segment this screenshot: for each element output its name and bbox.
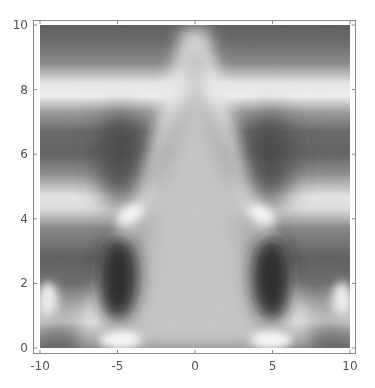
x-tick-label: -5: [112, 359, 124, 373]
plot-area: [30, 20, 360, 365]
x-tick-label: 0: [191, 359, 199, 373]
y-tick-label: 10: [13, 18, 28, 32]
y-tick-label: 8: [20, 83, 28, 97]
x-axis-labels: -10 -5 0 5 10: [30, 359, 357, 373]
x-tick-label: -10: [30, 359, 50, 373]
y-tick-label: 4: [20, 212, 28, 226]
y-tick-label: 2: [20, 276, 28, 290]
x-tick-label: 10: [342, 359, 357, 373]
y-tick-label: 6: [20, 147, 28, 161]
x-tick-label: 5: [269, 359, 277, 373]
density-plot: 0 2 4 6 8 10 -10 -5 0 5 10: [0, 0, 375, 388]
y-axis-labels: 0 2 4 6 8 10: [13, 18, 28, 355]
y-tick-label: 0: [20, 341, 28, 355]
